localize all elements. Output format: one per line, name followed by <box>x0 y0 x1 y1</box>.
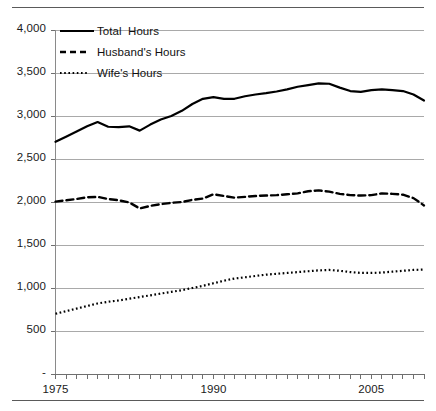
x-axis-tick-label: 1975 <box>26 383 86 395</box>
legend-key-dotted-icon <box>60 67 94 79</box>
chart-legend: Total Hours Husband's Hours Wife's Hours <box>60 20 230 83</box>
legend-key-solid-icon <box>60 25 94 37</box>
y-axis-tick-label: 500 <box>2 323 46 335</box>
legend-label-total: Total Hours <box>97 25 159 37</box>
y-axis-tick-label: 2,500 <box>2 151 46 163</box>
legend-item-wife: Wife's Hours <box>60 62 230 83</box>
data-series <box>56 83 425 313</box>
x-axis-tick-label: 2005 <box>341 383 401 395</box>
series-line-2 <box>56 270 425 314</box>
series-line-0 <box>56 83 425 141</box>
series-line-1 <box>56 190 425 208</box>
legend-item-total: Total Hours <box>60 20 230 41</box>
legend-label-wife: Wife's Hours <box>97 67 162 79</box>
y-axis-tick-label: 1,500 <box>2 237 46 249</box>
chart-figure: -5001,0001,5002,0002,5003,0003,5004,000 … <box>0 0 436 411</box>
legend-item-husband: Husband's Hours <box>60 41 230 62</box>
y-axis-tick-label: 2,000 <box>2 194 46 206</box>
y-axis-tick-label: 3,500 <box>2 65 46 77</box>
y-axis-tick-label: 1,000 <box>2 280 46 292</box>
y-axis-tick-label: 4,000 <box>2 22 46 34</box>
y-axis-tick-label: - <box>2 366 46 378</box>
legend-key-dashed-icon <box>60 46 94 58</box>
y-axis-tick-label: 3,000 <box>2 108 46 120</box>
x-axis-tick-label: 1990 <box>183 383 243 395</box>
legend-label-husband: Husband's Hours <box>97 46 186 58</box>
